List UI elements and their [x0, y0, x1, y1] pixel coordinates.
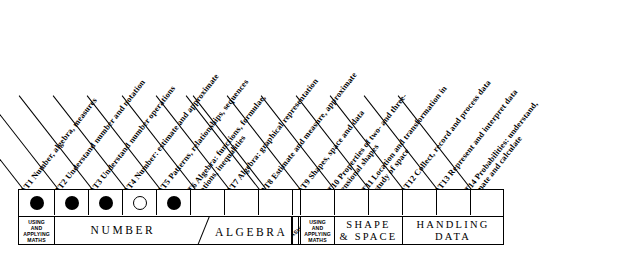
diagonal-label-layer: AT1 Number, algebra, measures AT2 Unders… [0, 0, 629, 200]
cell-at11[interactable] [369, 190, 403, 215]
marker-row [19, 190, 503, 216]
cell-at4[interactable] [123, 190, 157, 215]
group-using-applying-maths-1: USING AND APPLYING MATHS [19, 217, 55, 245]
cell-at3[interactable] [89, 190, 123, 215]
group-shape-space: SHAPE & SPACE [335, 217, 403, 245]
group-handling-data-label: HANDLING DATA [416, 219, 489, 243]
group-algebra: ALGEBRA [191, 217, 293, 245]
group-using-applying-maths-2-label: USING AND APPLYING MATHS [304, 219, 331, 244]
marker-filled-at1 [30, 196, 44, 210]
cell-at8[interactable] [259, 190, 293, 215]
attainment-targets-diagram: AT1 Number, algebra, measures AT2 Unders… [0, 0, 629, 261]
handling-line-2: DATA [416, 231, 489, 243]
group-row: USING AND APPLYING MATHS NUMBER ALGEBRA … [19, 216, 503, 245]
marker-filled-at3 [99, 196, 113, 210]
using-line-4: MATHS [23, 237, 50, 243]
cell-at1[interactable] [19, 190, 55, 215]
handling-line-1: HANDLING [416, 219, 489, 231]
cell-at2[interactable] [55, 190, 89, 215]
marker-filled-at2 [65, 196, 79, 210]
group-algebra-label: ALGEBRA [215, 226, 288, 239]
cell-at14[interactable] [471, 190, 503, 215]
group-number-label: NUMBER [91, 224, 156, 237]
group-using-applying-maths-1-label: USING AND APPLYING MATHS [23, 219, 50, 244]
algebra-divider-slash [197, 217, 211, 245]
group-number: NUMBER [55, 217, 191, 245]
caption-rule-1 [0, 95, 20, 200]
marker-open-at4 [133, 196, 147, 210]
shape-line-1: SHAPE [340, 219, 398, 231]
cell-at9[interactable] [301, 190, 335, 215]
caption-rule-10 [227, 95, 331, 200]
cell-at10[interactable] [335, 190, 369, 215]
measures-left-bar [291, 217, 292, 245]
group-shape-space-label: SHAPE & SPACE [340, 219, 398, 243]
cell-at5[interactable] [157, 190, 191, 215]
caption-rule-3 [0, 95, 89, 200]
cell-at6[interactable] [191, 190, 225, 215]
cell-at13[interactable] [437, 190, 471, 215]
using2-line-4: MATHS [304, 237, 331, 243]
group-measures: MEASURES [293, 217, 301, 245]
group-measures-label: MEASURES [293, 218, 301, 244]
group-using-applying-maths-2: USING AND APPLYING MATHS [301, 217, 335, 245]
cell-at12[interactable] [403, 190, 437, 215]
shape-line-2: & SPACE [340, 231, 398, 243]
group-handling-data: HANDLING DATA [403, 217, 503, 245]
attainment-grid: USING AND APPLYING MATHS NUMBER ALGEBRA … [18, 189, 504, 245]
measures-right-bar [298, 217, 299, 245]
cell-at7[interactable] [225, 190, 259, 215]
cell-measures-spacer [293, 190, 301, 215]
marker-filled-at5 [167, 196, 181, 210]
